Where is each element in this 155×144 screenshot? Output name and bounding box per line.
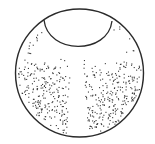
stipple-dot [37, 108, 38, 109]
stipple-dot [137, 82, 138, 83]
stipple-dot [86, 81, 87, 82]
stipple-dot [109, 124, 110, 125]
stipple-dot [62, 78, 63, 79]
stipple-dot [109, 114, 110, 115]
stipple-dot [59, 73, 60, 74]
stipple-dot [115, 114, 116, 115]
stipple-dot [101, 109, 102, 110]
stipple-dot [101, 124, 102, 125]
stipple-dot [19, 68, 20, 69]
stipple-dot [49, 106, 50, 107]
stipple-dot [65, 86, 66, 87]
stipple-dot [86, 87, 87, 88]
stipple-dot [37, 88, 38, 89]
stipple-dot [132, 93, 133, 94]
stipple-dot [128, 101, 129, 102]
stipple-dot [110, 116, 111, 117]
stipple-dot [42, 77, 43, 78]
stipple-dot [49, 76, 50, 77]
stipple-dot [134, 97, 135, 98]
stipple-dot [115, 79, 116, 80]
stipple-dot [42, 95, 43, 96]
stipple-dot [54, 92, 55, 93]
stipple-dot [26, 79, 27, 80]
stipple-dot [136, 70, 137, 71]
stipple-dot [132, 81, 133, 82]
stipple-dot [89, 120, 90, 121]
stipple-dot [63, 132, 64, 133]
stipple-dot [96, 127, 97, 128]
stipple-dot [122, 87, 123, 88]
stipple-dot [40, 103, 41, 104]
stipple-dot [99, 87, 100, 88]
stipple-dot [129, 80, 130, 81]
stipple-dot [107, 85, 108, 86]
stipple-dot [128, 81, 129, 82]
stipple-dot [62, 100, 63, 101]
stipple-dot [119, 26, 120, 27]
stipple-dot [38, 96, 39, 97]
stipple-dot [62, 110, 63, 111]
stipple-dot [37, 68, 38, 69]
stipple-dot [110, 120, 111, 121]
stipple-dot [108, 117, 109, 118]
stipple-dot [49, 85, 50, 86]
stipple-dot [54, 98, 55, 99]
stipple-dot [88, 120, 89, 121]
stipple-dot [104, 98, 105, 99]
stipple-dot [54, 84, 55, 85]
stipple-dot [30, 53, 31, 54]
stipple-dot [50, 125, 51, 126]
stipple-dot [89, 84, 90, 85]
stipple-dot [30, 42, 31, 43]
stipple-dot [118, 87, 119, 88]
stipple-dot [102, 94, 103, 95]
stipple-dot [89, 86, 90, 87]
stipple-dot [56, 112, 57, 113]
stipple-dot [33, 88, 34, 89]
stipple-dot [125, 83, 126, 84]
stipple-dot [110, 79, 111, 80]
stipple-dot [54, 110, 55, 111]
stipple-dot [62, 114, 63, 115]
stipple-dot [28, 102, 29, 103]
stipple-dot [49, 92, 50, 93]
stipple-dot [135, 90, 136, 91]
stipple-dot [87, 107, 88, 108]
stipple-dot [134, 77, 135, 78]
stipple-dot [101, 113, 102, 114]
stipple-dot [131, 63, 132, 64]
stipple-dot [45, 81, 46, 82]
stipple-dot [120, 111, 121, 112]
stipple-dot [97, 113, 98, 114]
stipple-dot [33, 99, 34, 100]
stipple-dot [87, 117, 88, 118]
stipple-dot [40, 69, 41, 70]
stipple-dot [22, 93, 23, 94]
stipple-dot [92, 120, 93, 121]
stipple-dot [34, 103, 35, 104]
stipple-dot [122, 108, 123, 109]
stipple-dot [49, 89, 50, 90]
stipple-dot [32, 92, 33, 93]
stipple-dot [99, 70, 100, 71]
stipple-dot [64, 103, 65, 104]
stipple-dot [24, 92, 25, 93]
stipple-dot [117, 109, 118, 110]
stipple-dot [119, 29, 120, 30]
stipple-dot [98, 97, 99, 98]
stipple-dot [112, 92, 113, 93]
stipple-dot [114, 105, 115, 106]
stipple-dot [35, 101, 36, 102]
stipple-dot [103, 115, 104, 116]
stipple-dot [62, 124, 63, 125]
stipple-dot [66, 119, 67, 120]
stippled-circle-diagram [0, 0, 155, 144]
stipple-dot [95, 66, 96, 67]
stipple-dot [107, 99, 108, 100]
stipple-dot [45, 98, 46, 99]
stipple-dot [19, 85, 20, 86]
stipple-dot [115, 121, 116, 122]
stipple-dot [124, 100, 125, 101]
stipple-dot [35, 105, 36, 106]
